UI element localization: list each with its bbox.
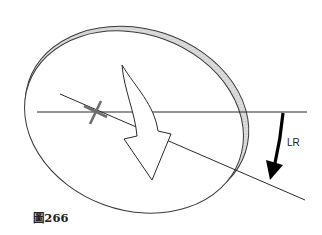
rotation-label: LR [287,137,300,148]
figure-caption: 圖266 [33,209,69,225]
rotation-arrow-icon [266,113,283,180]
disc-rotation-diagram: LR [0,0,322,235]
